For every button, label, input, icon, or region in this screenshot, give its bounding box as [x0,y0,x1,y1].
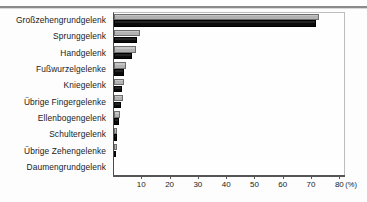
bar-series_dark [114,134,117,140]
x-tick-mark [311,175,312,179]
bar-series_light [114,30,140,36]
bar-series_dark [114,102,121,108]
x-tick-label: 20 [165,180,174,189]
bar-series_light [114,79,124,85]
category-label: Daumengrundgelenk [27,163,106,172]
bar-series_dark [114,86,122,92]
bar-series_dark [114,53,132,59]
bar-series_light [114,62,126,68]
x-tick-mark [339,175,340,179]
bar-series_light [114,111,120,117]
category-label: Ellenbogengelenk [38,114,106,123]
bar-series_light [114,46,136,52]
x-tick-label: 80 [335,180,344,189]
x-tick-label: 10 [137,180,146,189]
category-label: Großzehengrundgelenk [16,16,106,25]
x-tick-mark [254,175,255,179]
category-label: Handgelenk [60,49,106,58]
bar-series_light [114,14,319,20]
bar-series_light [114,144,117,150]
plot-area [113,12,345,175]
category-label: Übrige Zehengelenke [24,147,106,156]
bar-series_dark [114,69,124,75]
x-tick-label: 30 [193,180,202,189]
x-tick-label: 40 [222,180,231,189]
category-label: Sprunggelenk [53,32,106,41]
x-tick-mark [198,175,199,179]
x-tick-mark [226,175,227,179]
bar-series_dark [114,151,116,157]
x-tick-label: 70 [307,180,316,189]
bar-series_dark [114,20,316,26]
bar-series_light [114,128,117,134]
x-axis-unit-label: (%) [345,180,357,189]
x-tick-mark [170,175,171,179]
category-label: Übrige Fingergelenke [24,98,106,107]
category-label: Fußwurzelgelenke [36,65,106,74]
bar-series-container [114,12,345,175]
bar-series_dark [114,118,119,124]
x-tick-label: 50 [250,180,259,189]
x-axis-ticks: 1020304050607080(%) [113,175,345,199]
bar-series_light [114,95,123,101]
x-tick-mark [283,175,284,179]
category-axis-labels: GroßzehengrundgelenkSprunggelenkHandgele… [0,13,110,173]
bar-chart-figure: GroßzehengrundgelenkSprunggelenkHandgele… [0,0,367,202]
category-label: Kniegelenk [64,81,106,90]
x-tick-label: 60 [278,180,287,189]
x-tick-mark [141,175,142,179]
category-label: Schultergelenk [49,130,106,139]
figure-top-rule [0,6,367,8]
bar-series_dark [114,37,137,43]
